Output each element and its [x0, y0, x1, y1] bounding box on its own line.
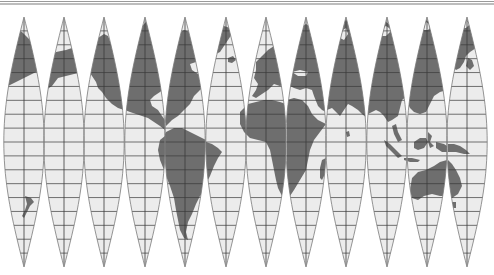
world-gore-map — [0, 0, 494, 275]
